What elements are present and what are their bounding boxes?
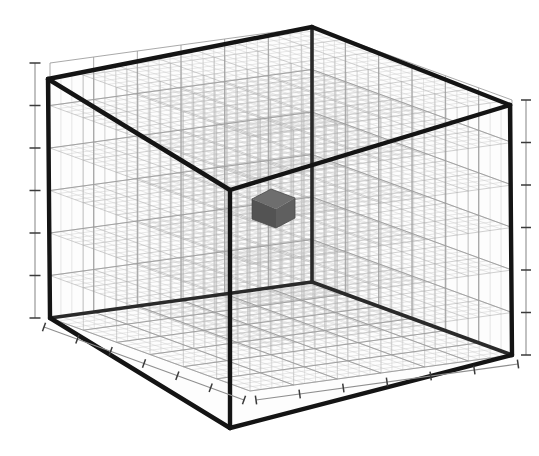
mesh-line xyxy=(517,360,518,369)
three-d-voxel-plot xyxy=(0,0,539,456)
edge-vertical-right xyxy=(510,105,512,355)
z-axis-left xyxy=(30,63,41,318)
z-axis-right xyxy=(521,100,531,355)
edge-vertical-left xyxy=(48,79,50,318)
figure-canvas xyxy=(0,0,539,456)
